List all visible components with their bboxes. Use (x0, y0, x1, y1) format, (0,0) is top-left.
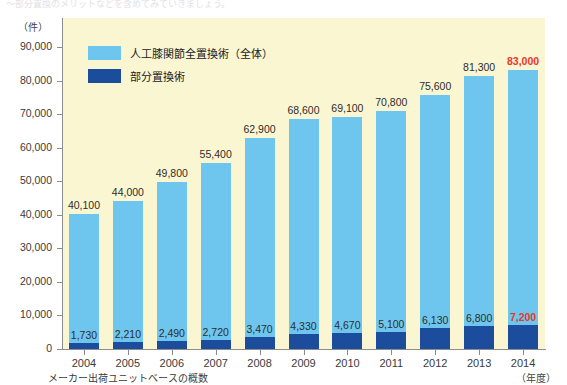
bar-value-label-partial: 7,200 (510, 311, 536, 323)
x-axis-tick-mark (479, 350, 480, 355)
bar-value-label-partial: 5,100 (378, 318, 404, 330)
bar-segment-partial (508, 325, 538, 349)
bar-segment-total (464, 76, 494, 349)
bar-group (157, 182, 187, 349)
x-axis-unit-label: （年度） (516, 370, 556, 385)
bar-group (332, 117, 362, 349)
bar-value-label-partial: 1,730 (71, 329, 97, 341)
y-axis-unit-label: （件） (18, 19, 48, 34)
bar-value-label-total: 40,100 (68, 199, 100, 211)
bar-segment-partial (113, 342, 143, 349)
x-axis-tick-mark (128, 350, 129, 355)
y-axis-tick-mark (57, 215, 62, 216)
bar-value-label-total: 83,000 (507, 55, 539, 67)
y-axis-tick-label: 50,000 (20, 174, 52, 186)
bar-value-label-partial: 2,490 (159, 327, 185, 339)
bar-segment-partial (376, 332, 406, 349)
y-axis-tick-label: 10,000 (20, 308, 52, 320)
bar-segment-partial (332, 333, 362, 349)
y-axis-line (62, 18, 63, 349)
bar-segment-partial (201, 340, 231, 349)
bar-segment-partial (289, 334, 319, 349)
bar-segment-total (157, 182, 187, 349)
legend-swatch-total-icon (88, 46, 121, 60)
bar-value-label-total: 62,900 (244, 123, 276, 135)
bar-value-label-total: 75,600 (419, 80, 451, 92)
y-axis-tick-mark (57, 81, 62, 82)
bar-segment-total (508, 70, 538, 349)
y-axis-tick-mark (57, 315, 62, 316)
bar-group (289, 119, 319, 349)
x-axis-tick-label: 2005 (116, 357, 140, 369)
x-axis-tick-mark (523, 350, 524, 355)
chart-legend: 人工膝関節全置換術（全体） 部分置換術 (88, 45, 273, 91)
x-axis-tick-mark (304, 350, 305, 355)
bar-value-label-partial: 2,210 (115, 328, 141, 340)
chart-footnote: メーカー出荷ユニットベースの概数 (48, 370, 208, 385)
bar-segment-total (420, 95, 450, 349)
bar-value-label-partial: 2,720 (203, 326, 229, 338)
bar-value-label-partial: 4,670 (334, 319, 360, 331)
x-axis-tick-mark (347, 350, 348, 355)
y-axis-tick-label: 0 (46, 342, 52, 354)
bar-segment-total (201, 163, 231, 349)
y-axis-tick-label: 40,000 (20, 208, 52, 220)
y-axis-tick-mark (57, 349, 62, 350)
legend-label-total: 人工膝関節全置換術（全体） (130, 45, 273, 61)
x-axis-tick-label: 2011 (379, 357, 403, 369)
bar-value-label-partial: 6,800 (466, 312, 492, 324)
legend-item-total: 人工膝関節全置換術（全体） (88, 45, 273, 61)
bar-value-label-total: 44,000 (112, 186, 144, 198)
x-axis-tick-label: 2009 (291, 357, 315, 369)
y-axis-tick-mark (57, 114, 62, 115)
bar-segment-partial (464, 326, 494, 349)
bar-value-label-partial: 4,330 (290, 320, 316, 332)
bar-group (508, 70, 538, 349)
x-axis-tick-mark (84, 350, 85, 355)
y-axis-tick-mark (57, 181, 62, 182)
y-axis-tick-mark (57, 148, 62, 149)
bar-value-label-total: 81,300 (463, 61, 495, 73)
legend-swatch-partial-icon (88, 69, 121, 83)
bar-group (376, 111, 406, 349)
x-axis-tick-label: 2004 (72, 357, 96, 369)
legend-label-partial: 部分置換術 (130, 68, 185, 84)
bar-group (245, 138, 275, 349)
bar-segment-partial (245, 337, 275, 349)
y-axis-tick-label: 80,000 (20, 74, 52, 86)
bar-group (201, 163, 231, 349)
y-axis-tick-label: 30,000 (20, 241, 52, 253)
bar-group (420, 95, 450, 349)
y-axis-tick-mark (57, 47, 62, 48)
y-axis-tick-label: 90,000 (20, 40, 52, 52)
bar-segment-total (332, 117, 362, 349)
x-axis-tick-label: 2012 (423, 357, 447, 369)
bar-segment-total (376, 111, 406, 349)
legend-item-partial: 部分置換術 (88, 68, 273, 84)
x-axis-tick-label: 2008 (247, 357, 271, 369)
x-axis-tick-label: 2014 (511, 357, 535, 369)
bar-segment-partial (157, 341, 187, 349)
x-axis-tick-mark (216, 350, 217, 355)
bar-segment-total (245, 138, 275, 349)
x-axis-tick-mark (172, 350, 173, 355)
y-axis-tick-label: 70,000 (20, 107, 52, 119)
bar-segment-partial (420, 328, 450, 349)
bar-value-label-total: 55,400 (200, 148, 232, 160)
bar-value-label-total: 69,100 (331, 102, 363, 114)
y-axis-tick-mark (57, 282, 62, 283)
bar-value-label-total: 68,600 (287, 104, 319, 116)
chart-figure: （件） 010,00020,00030,00040,00050,00060,00… (0, 0, 567, 385)
bar-value-label-total: 70,800 (375, 96, 407, 108)
bar-segment-total (289, 119, 319, 349)
x-axis-tick-label: 2010 (335, 357, 359, 369)
y-axis-tick-label: 20,000 (20, 275, 52, 287)
x-axis-tick-label: 2007 (203, 357, 227, 369)
x-axis-tick-label: 2013 (467, 357, 491, 369)
x-axis-tick-mark (260, 350, 261, 355)
bar-value-label-partial: 6,130 (422, 314, 448, 326)
y-axis-tick-mark (57, 248, 62, 249)
x-axis-tick-mark (391, 350, 392, 355)
bar-value-label-total: 49,800 (156, 167, 188, 179)
x-axis-tick-label: 2006 (160, 357, 184, 369)
